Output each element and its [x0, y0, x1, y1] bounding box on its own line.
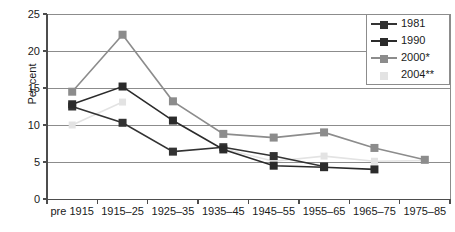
x-tick-label: 1915–25: [101, 205, 144, 217]
data-point: [169, 97, 177, 105]
legend-swatch-1990: [371, 35, 397, 47]
legend-swatch-2000: [371, 52, 397, 64]
chart-container: Per cent 2520151050 pre 19151915–251925–…: [0, 0, 455, 232]
data-point: [119, 99, 126, 106]
x-tick-label: pre 1915: [50, 205, 93, 217]
y-tick-label: 0: [14, 194, 40, 204]
legend: 1981 1990 2000* 2004**: [366, 14, 450, 85]
series-line: [72, 102, 122, 125]
data-point: [421, 156, 429, 164]
legend-item-1981[interactable]: 1981: [367, 15, 449, 32]
data-point: [119, 119, 127, 127]
y-tick-label: 10: [14, 120, 40, 130]
data-point: [169, 148, 177, 156]
data-point: [370, 144, 378, 152]
data-point: [320, 128, 328, 136]
legend-swatch-1981: [371, 18, 397, 30]
legend-swatch-2004: [371, 69, 397, 81]
data-point: [370, 165, 378, 173]
series-2004: [69, 99, 429, 165]
data-point: [321, 153, 328, 160]
legend-label-2000: 2000*: [401, 52, 430, 63]
x-tick-label: 1965–75: [353, 205, 396, 217]
data-point: [68, 100, 76, 108]
legend-item-2004[interactable]: 2004**: [367, 66, 449, 83]
y-tick-label: 15: [14, 83, 40, 93]
y-tick-label: 5: [14, 157, 40, 167]
y-tick-label: 20: [14, 46, 40, 56]
data-point: [270, 152, 278, 160]
data-point: [270, 134, 278, 142]
y-tick-label: 25: [14, 9, 40, 19]
data-point: [320, 163, 328, 171]
data-point: [219, 130, 227, 138]
legend-item-2000[interactable]: 2000*: [367, 49, 449, 66]
legend-label-2004: 2004**: [401, 69, 434, 80]
x-tick-label: 1975–85: [403, 205, 446, 217]
x-tick-label: 1935–45: [202, 205, 245, 217]
data-point: [119, 83, 127, 91]
x-tick-label: 1925–35: [152, 205, 195, 217]
legend-label-1990: 1990: [401, 35, 425, 46]
x-tick-label: 1945–55: [252, 205, 295, 217]
legend-label-1981: 1981: [401, 18, 425, 29]
data-point: [169, 117, 177, 125]
data-point: [219, 145, 227, 153]
x-tick-label: 1955–65: [303, 205, 346, 217]
data-point: [68, 88, 76, 96]
series-1990: [68, 83, 378, 174]
legend-item-1990[interactable]: 1990: [367, 32, 449, 49]
data-point: [270, 162, 278, 170]
data-point: [119, 31, 127, 39]
data-point: [371, 158, 378, 165]
data-point: [69, 122, 76, 129]
